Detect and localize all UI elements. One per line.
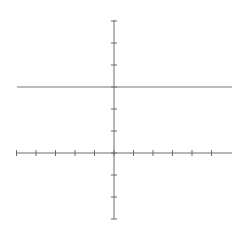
graph-plot (0, 0, 251, 234)
axes (17, 20, 233, 219)
